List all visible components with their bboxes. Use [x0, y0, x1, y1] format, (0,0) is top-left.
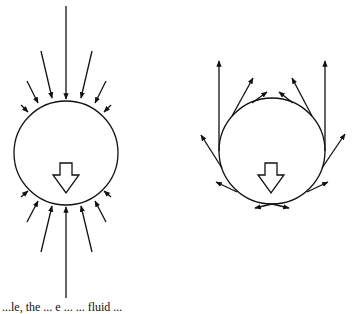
inward-arrow: [81, 206, 92, 252]
down-hollow-arrow-icon: [258, 163, 284, 193]
tangent-arrow: [279, 92, 293, 103]
inward-arrow: [95, 201, 106, 222]
tangent-arrow: [292, 78, 312, 116]
right-panel: [201, 61, 345, 208]
inward-arrow: [81, 51, 92, 98]
inward-arrow: [41, 206, 52, 252]
inward-arrow: [21, 191, 28, 197]
tangent-arrow: [255, 204, 272, 208]
down-hollow-arrow-icon: [53, 163, 79, 193]
left-panel: [14, 6, 118, 298]
inward-arrow: [95, 81, 106, 103]
diagram-canvas: [0, 0, 361, 314]
inward-arrow: [27, 201, 38, 222]
tangent-arrow: [272, 204, 289, 208]
inward-arrow: [104, 105, 111, 112]
inward-arrow: [21, 105, 28, 112]
inward-arrow: [104, 191, 111, 197]
figure-caption: ...le, the ... e ... ... fluid ...: [2, 300, 122, 314]
inward-arrow: [27, 81, 38, 103]
right-circle: [219, 98, 325, 204]
tangent-arrow: [252, 92, 267, 103]
left-circle: [14, 101, 118, 205]
inward-arrow: [41, 51, 52, 98]
tangent-arrow: [232, 78, 253, 116]
